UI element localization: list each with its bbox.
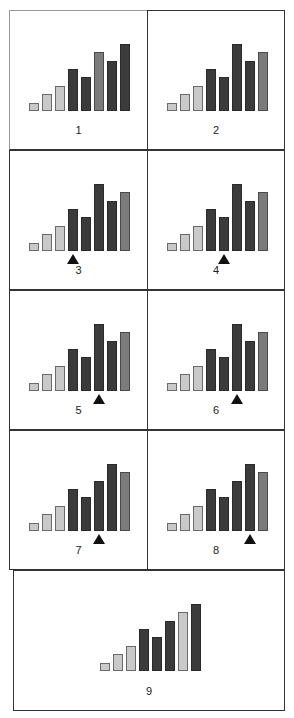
step-panel-2: 2: [147, 10, 285, 150]
bar-5: [219, 217, 229, 251]
bar-8: [258, 52, 268, 111]
bar-7: [107, 341, 117, 391]
bar-2: [180, 374, 190, 391]
step-panel-9: 9: [13, 570, 285, 711]
bar-group: [167, 324, 268, 391]
pointer-triangle-icon: [67, 254, 79, 264]
pointer-triangle-icon: [231, 394, 243, 404]
bar-4: [68, 489, 78, 531]
bar-4: [139, 629, 149, 671]
bar-2: [42, 514, 52, 531]
step-panel-3: 3: [9, 150, 148, 290]
bar-1: [167, 523, 177, 531]
bar-3: [193, 366, 203, 391]
bar-6: [165, 621, 175, 671]
step-number-label: 5: [10, 404, 147, 416]
bar-6: [94, 481, 104, 531]
bar-7: [107, 61, 117, 111]
bar-2: [42, 94, 52, 111]
bar-6: [94, 324, 104, 391]
step-number-label: 1: [10, 124, 147, 136]
bar-7: [245, 201, 255, 251]
bar-1: [100, 663, 110, 671]
bar-6: [94, 52, 104, 111]
step-number-label: 7: [10, 544, 147, 556]
bar-5: [81, 497, 91, 531]
bar-3: [55, 506, 65, 531]
pointer-triangle-icon: [218, 254, 230, 264]
bar-5: [81, 217, 91, 251]
bar-6: [232, 184, 242, 251]
step-number-label: 4: [148, 264, 284, 276]
bar-1: [167, 243, 177, 251]
bar-3: [55, 226, 65, 251]
bar-3: [193, 226, 203, 251]
bar-4: [68, 349, 78, 391]
bar-5: [219, 357, 229, 391]
bar-3: [55, 366, 65, 391]
bar-1: [29, 103, 39, 111]
step-panel-8: 8: [147, 430, 285, 570]
pointer-triangle-icon: [93, 394, 105, 404]
bar-2: [42, 374, 52, 391]
bar-7: [245, 464, 255, 531]
step-number-label: 2: [148, 124, 284, 136]
step-number-label: 8: [148, 544, 284, 556]
bar-8: [258, 472, 268, 531]
bar-group: [29, 184, 130, 251]
bar-5: [81, 357, 91, 391]
step-panel-5: 5: [9, 290, 148, 430]
bar-3: [193, 86, 203, 111]
step-panel-6: 6: [147, 290, 285, 430]
bar-2: [180, 234, 190, 251]
step-panel-1: 1: [9, 10, 148, 150]
step-number-label: 6: [148, 404, 284, 416]
bar-group: [29, 44, 130, 111]
bar-2: [42, 234, 52, 251]
bar-6: [232, 44, 242, 111]
bar-5: [152, 637, 162, 671]
bar-2: [113, 654, 123, 671]
bar-6: [232, 324, 242, 391]
bar-1: [29, 383, 39, 391]
bar-1: [167, 383, 177, 391]
bar-3: [126, 646, 136, 671]
step-number-label: 3: [10, 264, 147, 276]
bar-group: [29, 464, 130, 531]
pointer-triangle-icon: [93, 534, 105, 544]
bar-group: [167, 44, 268, 111]
bar-7: [178, 612, 188, 671]
pointer-triangle-icon: [244, 534, 256, 544]
bar-5: [81, 77, 91, 111]
bar-8: [120, 44, 130, 111]
bar-4: [68, 69, 78, 111]
bar-7: [245, 61, 255, 111]
bar-8: [120, 332, 130, 391]
step-number-label: 9: [14, 685, 284, 697]
bar-8: [191, 604, 201, 671]
bar-1: [167, 103, 177, 111]
bar-1: [29, 523, 39, 531]
bar-2: [180, 514, 190, 531]
bar-8: [258, 332, 268, 391]
bar-group: [29, 324, 130, 391]
bar-5: [219, 497, 229, 531]
bar-4: [206, 209, 216, 251]
bar-7: [245, 341, 255, 391]
step-panel-4: 4: [147, 150, 285, 290]
bar-4: [68, 209, 78, 251]
bar-8: [258, 192, 268, 251]
bar-3: [55, 86, 65, 111]
bar-group: [167, 184, 268, 251]
bar-8: [120, 472, 130, 531]
bar-3: [193, 506, 203, 531]
bar-2: [180, 94, 190, 111]
bar-4: [206, 489, 216, 531]
bar-6: [232, 481, 242, 531]
bar-group: [167, 464, 268, 531]
bar-4: [206, 349, 216, 391]
bar-5: [219, 77, 229, 111]
bar-4: [206, 69, 216, 111]
bar-6: [94, 184, 104, 251]
bar-group: [100, 604, 201, 671]
